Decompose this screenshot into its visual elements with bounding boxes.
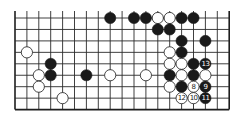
white-stone: [33, 81, 44, 92]
white-stone: [200, 70, 211, 81]
black-stone: [140, 12, 151, 23]
stone-disc: [152, 24, 163, 35]
black-stone: [176, 35, 187, 46]
white-stone: [164, 58, 175, 69]
stone-disc: [176, 35, 187, 46]
stone-disc: [33, 70, 44, 81]
black-stone: [188, 12, 199, 23]
black-stone: [200, 35, 211, 46]
move-number-label: 9: [203, 83, 207, 91]
go-board: 1389121011: [0, 0, 248, 123]
black-stone: [176, 47, 187, 58]
stone-disc: [188, 70, 199, 81]
stone-disc: [105, 70, 116, 81]
stone-disc: [45, 70, 56, 81]
white-stone: [164, 47, 175, 58]
black-stone: [45, 58, 56, 69]
stone-disc: [176, 58, 187, 69]
white-stone: [152, 12, 163, 23]
numbered-white-stone: 10: [188, 93, 199, 104]
white-stone: [57, 93, 68, 104]
stone-disc: [164, 12, 175, 23]
black-stone: [81, 70, 92, 81]
stone-disc: [164, 58, 175, 69]
stone-disc: [81, 70, 92, 81]
white-stone: [140, 70, 151, 81]
stone-disc: [152, 12, 163, 23]
numbered-white-stone: 8: [188, 81, 199, 92]
white-stone: [176, 58, 187, 69]
black-stone: [164, 70, 175, 81]
black-stone: [105, 12, 116, 23]
white-stone: [164, 81, 175, 92]
stone-disc: [140, 70, 151, 81]
white-stone: [21, 47, 32, 58]
white-stone: [176, 70, 187, 81]
stones-layer: 1389121011: [21, 12, 211, 103]
black-stone: [164, 24, 175, 35]
white-stone: [33, 70, 44, 81]
stone-disc: [140, 12, 151, 23]
stone-disc: [176, 47, 187, 58]
stone-disc: [176, 12, 187, 23]
stone-disc: [128, 12, 139, 23]
numbered-black-stone: 9: [200, 81, 211, 92]
stone-disc: [176, 70, 187, 81]
white-stone: [105, 70, 116, 81]
numbered-white-stone: 12: [176, 93, 187, 104]
numbered-black-stone: 11: [200, 93, 211, 104]
move-number-label: 10: [190, 94, 198, 102]
stone-disc: [21, 47, 32, 58]
stone-disc: [57, 93, 68, 104]
black-stone: [188, 70, 199, 81]
stone-disc: [45, 58, 56, 69]
stone-disc: [164, 24, 175, 35]
stone-disc: [105, 12, 116, 23]
black-stone: [176, 12, 187, 23]
stone-disc: [200, 70, 211, 81]
numbered-black-stone: 13: [200, 58, 211, 69]
black-stone: [128, 12, 139, 23]
black-stone: [45, 70, 56, 81]
black-stone: [152, 24, 163, 35]
stone-disc: [188, 58, 199, 69]
black-stone: [188, 58, 199, 69]
move-number-label: 8: [192, 83, 196, 91]
stone-disc: [164, 70, 175, 81]
move-number-label: 12: [178, 94, 186, 102]
stone-disc: [164, 47, 175, 58]
white-stone: [164, 12, 175, 23]
stone-disc: [33, 81, 44, 92]
move-number-label: 13: [202, 60, 210, 68]
stone-disc: [164, 81, 175, 92]
stone-disc: [188, 12, 199, 23]
stone-disc: [200, 35, 211, 46]
move-number-label: 11: [202, 94, 210, 102]
stone-disc: [176, 81, 187, 92]
black-stone: [176, 81, 187, 92]
